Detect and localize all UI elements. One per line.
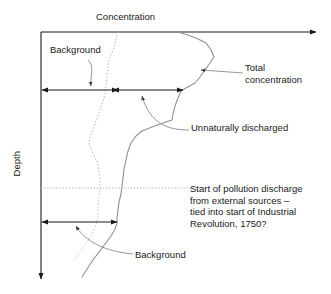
total-concentration-curve — [82, 32, 214, 277]
total-concentration-leader — [201, 70, 243, 73]
annotation-unnaturally-discharged: Unnaturally discharged — [191, 122, 288, 134]
annotation-background-top: Background — [50, 44, 101, 56]
background-bottom-leader — [76, 226, 133, 254]
unnaturally-discharged-leader — [142, 96, 189, 130]
background-curve-lower-tail — [74, 190, 100, 260]
diagram-root: Concentration Depth Background Total con… — [0, 0, 331, 294]
x-axis-label: Concentration — [96, 11, 155, 23]
annotation-start-pollution: Start of pollution discharge from extern… — [190, 183, 302, 229]
annotation-total-concentration: Total concentration — [245, 62, 302, 85]
y-axis-label: Depth — [11, 142, 23, 186]
background-top-leader — [88, 60, 92, 86]
annotation-background-bottom: Background — [135, 249, 186, 261]
background-concentration-curve — [89, 32, 118, 190]
